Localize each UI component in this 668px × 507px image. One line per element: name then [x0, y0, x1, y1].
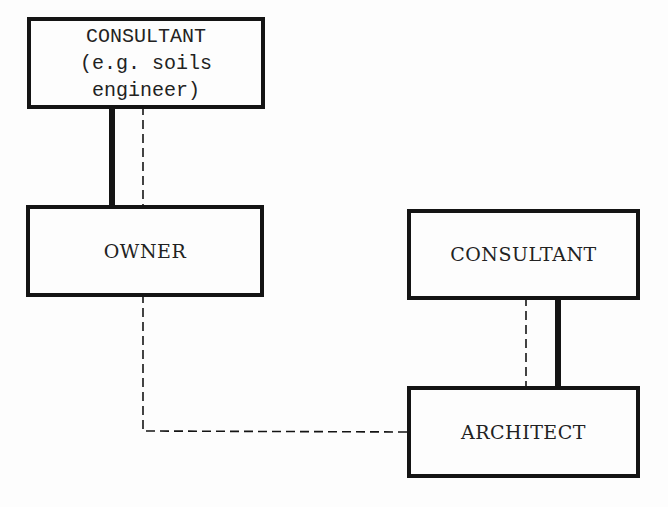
consultant-label: CONSULTANT: [450, 241, 597, 268]
architect-label: ARCHITECT: [461, 419, 586, 446]
owner-box: OWNER: [26, 205, 264, 297]
owner-label: OWNER: [104, 238, 186, 265]
architect-box: ARCHITECT: [407, 386, 640, 478]
consultant-soils-engineer-label: CONSULTANT (e.g. soils engineer): [80, 23, 212, 104]
consultant-soils-engineer-box: CONSULTANT (e.g. soils engineer): [27, 17, 265, 109]
communication-line-owner-architect: [143, 294, 410, 432]
diagram-canvas: CONSULTANT (e.g. soils engineer) OWNER C…: [0, 0, 668, 507]
consultant-box: CONSULTANT: [407, 209, 640, 300]
